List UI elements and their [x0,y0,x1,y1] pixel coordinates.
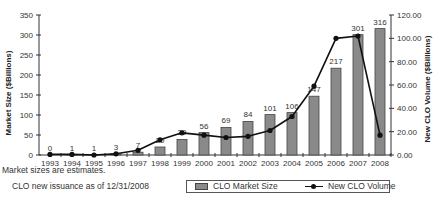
left-y-axis: 050100150200250300350 [20,11,41,160]
volume-point-marker [157,137,162,142]
volume-point-marker [245,134,250,139]
x-tick-label: 2006 [327,159,345,168]
bar-value-label: 84 [244,110,253,119]
left-tick-label: 100 [20,111,34,120]
x-tick-label: 1999 [173,159,191,168]
x-tick-label: 1997 [129,159,147,168]
left-axis-title: Market Size ($Billions) [4,50,13,135]
x-tick-label: 2001 [217,159,235,168]
right-tick-label: 20.00 [397,128,418,137]
market-size-bar [221,127,231,155]
volume-point-marker [91,152,96,157]
x-tick-label: 2003 [261,159,279,168]
right-tick-label: 0.00 [397,151,413,160]
x-tick-label: 1996 [107,159,125,168]
right-tick-label: 120.00 [397,11,422,20]
bar-value-label: 101 [263,104,277,113]
x-tick-label: 2008 [371,159,389,168]
volume-point-marker [289,114,294,119]
volume-point-marker [311,84,316,89]
volume-point-marker [377,133,382,138]
volume-point-marker [47,152,52,157]
volume-point-marker [69,152,74,157]
volume-point-marker [201,133,206,138]
bar-value-label: 301 [351,24,365,33]
x-tick-label: 2002 [239,159,257,168]
market-size-bar [331,68,341,155]
bar-value-label: 1 [92,144,97,153]
legend-item-new-volume: New CLO Volume [305,181,396,192]
right-y-axis: 0.0020.0040.0060.0080.00100.00120.00 [389,11,422,160]
volume-point-marker [223,135,228,140]
left-tick-label: 150 [20,91,34,100]
estimate-note: Market sizes are estimates. [2,165,105,175]
left-tick-label: 200 [20,71,34,80]
bar-value-label: 217 [329,57,343,66]
legend-item-market-size: CLO Market Size [195,181,278,192]
bar-value-label: 69 [222,116,231,125]
x-tick-label: 2004 [283,159,301,168]
market-size-bar [155,147,165,155]
x-tick-label: 2000 [195,159,213,168]
issuance-date-note: CLO new issuance as of 12/31/2008 [12,181,149,191]
left-tick-label: 50 [24,131,33,140]
line-marker-swatch-icon [305,181,323,192]
market-size-bar [177,139,187,155]
volume-point-marker [333,36,338,41]
bar-value-label: 0 [48,144,53,153]
bar-value-label: 1 [70,144,75,153]
left-tick-label: 0 [29,151,34,160]
left-tick-label: 300 [20,31,34,40]
market-size-bar [309,96,319,155]
right-tick-label: 60.00 [397,81,418,90]
legend-label-new-volume: New CLO Volume [328,181,396,192]
left-tick-label: 250 [20,51,34,60]
bar-value-label: 3 [114,143,119,152]
bar-swatch-icon [195,183,208,190]
volume-point-marker [355,33,360,38]
right-tick-label: 40.00 [397,104,418,113]
volume-point-marker [179,130,184,135]
bar-value-label: 56 [200,122,209,131]
right-tick-label: 80.00 [397,58,418,67]
chart-legend: CLO Market Size New CLO Volume [186,180,390,193]
legend-label-market-size: CLO Market Size [213,181,278,192]
x-tick-label: 1998 [151,159,169,168]
volume-point-marker [267,128,272,133]
x-tick-label: 2007 [349,159,367,168]
left-tick-label: 350 [20,11,34,20]
volume-point-marker [135,148,140,153]
bar-value-label: 316 [373,18,387,27]
volume-point-marker [113,151,118,156]
right-axis-title: New CLO Volume ($Billions) [423,35,432,142]
x-tick-label: 2005 [305,159,323,168]
market-size-bar [265,115,275,155]
right-tick-label: 100.00 [397,34,422,43]
